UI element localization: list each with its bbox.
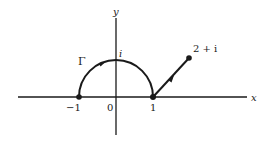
two-plus-i-label: 2 + i (193, 43, 217, 54)
point-two-plus-i (186, 55, 192, 61)
i-label: i (119, 48, 122, 59)
point-one (150, 94, 156, 100)
y-axis-label: y (112, 6, 119, 17)
contour-diagram: y x Γ i 2 + i −1 0 1 (0, 0, 266, 145)
tick-label-zero: 0 (107, 102, 113, 113)
tick-label-one: 1 (150, 102, 156, 113)
x-axis-label: x (251, 92, 257, 103)
point-neg-one (76, 94, 82, 100)
gamma-label: Γ (78, 55, 86, 68)
tick-label-neg-one: −1 (66, 102, 81, 113)
